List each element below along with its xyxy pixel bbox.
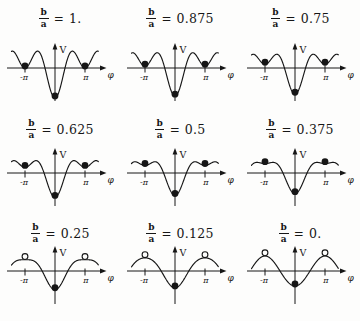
ratio-value: 0.75	[301, 11, 330, 26]
neg-pi-tick-label: -π	[260, 178, 269, 187]
v-axis-label: V	[179, 149, 187, 160]
fraction-numerator: b	[270, 8, 280, 18]
panel-ba-0.75: ba = 0.75 φV-ππ	[240, 0, 360, 105]
pos-pi-tick-label: π	[82, 276, 89, 285]
unstable-equilibrium-circle-right	[322, 250, 328, 256]
equals-sign: =	[286, 12, 296, 26]
panel-ba-0.625: ba = 0.625 φV-ππ	[0, 105, 120, 210]
stable-equilibrium-dot-center	[52, 192, 59, 199]
pos-pi-tick-label: π	[322, 73, 329, 82]
fraction-denominator: a	[26, 129, 36, 140]
v-axis-label: V	[299, 149, 307, 160]
phi-axis-label: φ	[108, 273, 115, 283]
stable-equilibrium-dot-right	[202, 61, 209, 68]
ratio-label: ba = 0.125	[120, 223, 240, 245]
stable-equilibrium-dot-right	[322, 59, 329, 66]
ratio-label: ba = 0.375	[240, 119, 360, 141]
v-axis-arrow	[293, 43, 298, 50]
stable-equilibrium-dot-center	[172, 190, 179, 197]
ratio-value: 0.	[309, 226, 322, 241]
b-over-a-fraction: ba	[154, 119, 164, 141]
phi-axis-label: φ	[108, 70, 115, 80]
panel-ba-0.375: ba = 0.375 φV-ππ	[240, 105, 360, 210]
unstable-equilibrium-circle-right	[82, 254, 88, 260]
stable-equilibrium-dot-center	[52, 284, 59, 291]
fraction-numerator: b	[146, 223, 156, 233]
ratio-value: 0.25	[61, 226, 90, 241]
stable-equilibrium-dot-right	[322, 158, 329, 165]
stable-equilibrium-dot-right	[82, 162, 89, 169]
phi-axis-arrow	[220, 269, 227, 274]
v-axis-arrow	[53, 43, 58, 50]
fraction-denominator: a	[146, 18, 156, 29]
phi-axis-label: φ	[228, 175, 235, 185]
stable-equilibrium-dot-left	[22, 63, 29, 70]
pos-pi-tick-label: π	[82, 73, 89, 82]
pos-pi-tick-label: π	[322, 276, 329, 285]
b-over-a-fraction: ba	[270, 8, 280, 30]
v-axis-label: V	[59, 44, 67, 55]
unstable-equilibrium-circle-left	[142, 252, 148, 258]
equals-sign: =	[41, 123, 51, 137]
b-over-a-fraction: ba	[146, 8, 156, 30]
neg-pi-tick-label: -π	[20, 178, 29, 187]
unstable-equilibrium-circle-left	[22, 254, 28, 260]
fraction-denominator: a	[39, 18, 49, 29]
pos-pi-tick-label: π	[82, 178, 89, 187]
ratio-value: 0.875	[177, 11, 214, 26]
fraction-denominator: a	[155, 129, 165, 140]
ratio-value: 1.	[69, 11, 82, 26]
neg-pi-tick-label: -π	[140, 178, 149, 187]
pos-pi-tick-label: π	[202, 178, 209, 187]
stable-equilibrium-dot-left	[262, 158, 269, 165]
neg-pi-tick-label: -π	[20, 73, 29, 82]
phi-axis-arrow	[340, 269, 347, 274]
v-axis-arrow	[293, 148, 298, 155]
neg-pi-tick-label: -π	[20, 276, 29, 285]
unstable-equilibrium-circle-left	[262, 250, 268, 256]
figure-grid: ba = 1. φV-ππ ba = 0.875 φV-ππ ba = 0.75…	[0, 0, 360, 321]
pos-pi-tick-label: π	[322, 178, 329, 187]
stable-equilibrium-dot-center	[172, 282, 179, 289]
phi-axis-arrow	[100, 66, 107, 71]
v-axis-label: V	[59, 247, 67, 258]
equals-sign: =	[161, 12, 171, 26]
v-axis-arrow	[173, 148, 178, 155]
fraction-numerator: b	[279, 223, 289, 233]
fraction-numerator: b	[30, 223, 40, 233]
panel-ba-0.5: ba = 0.5 φV-ππ	[120, 105, 240, 210]
equals-sign: =	[46, 227, 56, 241]
ratio-value: 0.5	[185, 122, 206, 137]
stable-equilibrium-dot-left	[142, 61, 149, 68]
v-axis-label: V	[179, 44, 187, 55]
ratio-label: ba = 0.25	[0, 223, 120, 245]
stable-equilibrium-dot-center	[292, 89, 299, 96]
ratio-label: ba = 0.875	[120, 8, 240, 30]
ratio-label: ba = 1.	[0, 8, 120, 30]
fraction-numerator: b	[154, 119, 164, 129]
b-over-a-fraction: ba	[39, 8, 49, 30]
fraction-denominator: a	[271, 18, 281, 29]
v-axis-label: V	[299, 247, 307, 258]
panel-ba-0.25: ba = 0.25 φV-ππ	[0, 210, 120, 321]
equals-sign: =	[161, 227, 171, 241]
stable-equilibrium-dot-left	[22, 162, 29, 169]
v-axis-arrow	[53, 246, 58, 253]
stable-equilibrium-dot-center	[292, 188, 299, 195]
stable-equilibrium-dot-right	[82, 63, 89, 70]
phi-axis-arrow	[340, 66, 347, 71]
fraction-numerator: b	[146, 8, 156, 18]
ratio-value: 0.625	[57, 122, 94, 137]
stable-equilibrium-dot-left	[262, 59, 269, 66]
v-axis-arrow	[53, 148, 58, 155]
panel-ba-1.0: ba = 1. φV-ππ	[0, 0, 120, 105]
b-over-a-fraction: ba	[146, 223, 156, 245]
stable-equilibrium-dot-center	[292, 281, 299, 288]
phi-axis-label: φ	[348, 175, 355, 185]
equals-sign: =	[170, 123, 180, 137]
b-over-a-fraction: ba	[30, 223, 40, 245]
unstable-equilibrium-circle-right	[202, 252, 208, 258]
neg-pi-tick-label: -π	[260, 73, 269, 82]
fraction-denominator: a	[146, 233, 156, 244]
pos-pi-tick-label: π	[202, 73, 209, 82]
